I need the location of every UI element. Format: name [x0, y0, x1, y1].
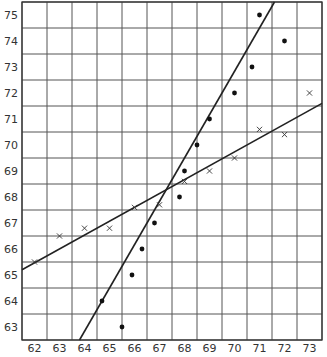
dot-marker [282, 39, 287, 44]
y-tick-label: 75 [4, 9, 18, 22]
x-tick-label: 64 [78, 342, 92, 355]
dot-marker [130, 273, 135, 278]
x-tick-label: 67 [153, 342, 167, 355]
x-tick-label: 68 [178, 342, 192, 355]
y-tick-label: 74 [4, 35, 18, 48]
dot-marker [207, 117, 212, 122]
x-tick-label: 72 [278, 342, 292, 355]
dot-marker [100, 299, 105, 304]
y-tick-label: 63 [4, 321, 18, 334]
dot-marker [195, 143, 200, 148]
dot-marker [177, 195, 182, 200]
y-tick-label: 66 [4, 243, 18, 256]
dot-marker [250, 65, 255, 70]
x-tick-label: 65 [103, 342, 117, 355]
y-tick-label: 72 [4, 87, 18, 100]
scatter-chart: 626364656667686970717273 757473727170696… [0, 0, 327, 357]
y-tick-label: 69 [4, 165, 18, 178]
x-tick-label: 69 [203, 342, 217, 355]
dot-marker [257, 13, 262, 18]
y-tick-label: 71 [4, 113, 18, 126]
dot-marker [232, 91, 237, 96]
x-tick-label: 66 [128, 342, 142, 355]
dot-marker [152, 221, 157, 226]
y-tick-label: 67 [4, 217, 18, 230]
y-tick-label: 68 [4, 191, 18, 204]
dot-marker [120, 325, 125, 330]
dot-marker [182, 169, 187, 174]
x-tick-label: 70 [228, 342, 242, 355]
x-tick-label: 73 [303, 342, 317, 355]
y-tick-label: 70 [4, 139, 18, 152]
x-tick-label: 63 [53, 342, 67, 355]
y-tick-label: 73 [4, 61, 18, 74]
y-tick-label: 65 [4, 269, 18, 282]
dot-marker [140, 247, 145, 252]
x-tick-label: 62 [28, 342, 42, 355]
y-tick-label: 64 [4, 295, 18, 308]
x-tick-label: 71 [253, 342, 267, 355]
